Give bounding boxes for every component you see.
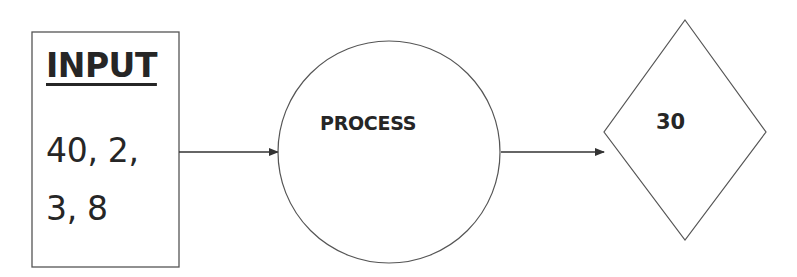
process-circle bbox=[278, 41, 500, 263]
output-value: 30 bbox=[656, 110, 685, 134]
process-label: PROCESS bbox=[320, 112, 416, 134]
input-title: INPUT bbox=[46, 46, 157, 85]
input-values-line-2: 3, 8 bbox=[46, 189, 108, 228]
input-values-line-1: 40, 2, bbox=[46, 131, 139, 170]
